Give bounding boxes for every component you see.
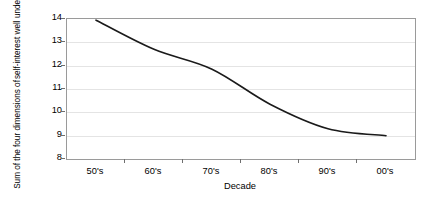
y-axis-tick-label: 8	[40, 153, 62, 162]
y-axis-tick	[61, 18, 65, 19]
plot-area	[66, 18, 416, 160]
x-axis-tick	[182, 159, 183, 163]
y-axis-tick	[61, 158, 65, 159]
x-axis-tick-label: 50's	[66, 165, 124, 179]
y-axis-tick	[61, 41, 65, 42]
y-axis-tick-label: 12	[40, 60, 62, 69]
x-axis-tick	[298, 159, 299, 163]
y-axis-tick	[61, 88, 65, 89]
data-series-line	[67, 19, 415, 159]
x-axis-tick-marks	[66, 159, 414, 164]
y-axis-tick	[61, 111, 65, 112]
y-axis-title: Sum of the four dimensions of self-inter…	[3, 3, 33, 163]
line-chart: Sum of the four dimensions of self-inter…	[0, 0, 429, 203]
series-path	[96, 20, 386, 136]
x-axis-title: Decade	[66, 180, 414, 192]
x-axis-tick	[124, 159, 125, 163]
y-axis-tick	[61, 135, 65, 136]
y-axis-title-line-1: Sum of the four dimensions of	[13, 80, 23, 189]
y-axis-title-line-2: self-interest well understood	[13, 0, 23, 79]
x-axis-tick-label: 60's	[124, 165, 182, 179]
y-axis-tick-label: 13	[40, 37, 62, 46]
x-axis-tick	[240, 159, 241, 163]
x-axis-tick-label: 80's	[240, 165, 298, 179]
x-axis-tick-label: 70's	[182, 165, 240, 179]
y-axis-tick-label: 9	[40, 130, 62, 139]
y-axis-tick-labels: 891011121314	[38, 0, 62, 203]
x-axis-tick-label: 90's	[298, 165, 356, 179]
y-axis-tick-label: 14	[40, 13, 62, 22]
x-axis-tick-labels: 50's60's70's80's90's00's	[66, 165, 414, 179]
x-axis-tick	[356, 159, 357, 163]
x-axis-tick-label: 00's	[356, 165, 414, 179]
y-axis-tick-label: 11	[40, 83, 62, 92]
y-axis-tick	[61, 65, 65, 66]
y-axis-tick-label: 10	[40, 107, 62, 116]
